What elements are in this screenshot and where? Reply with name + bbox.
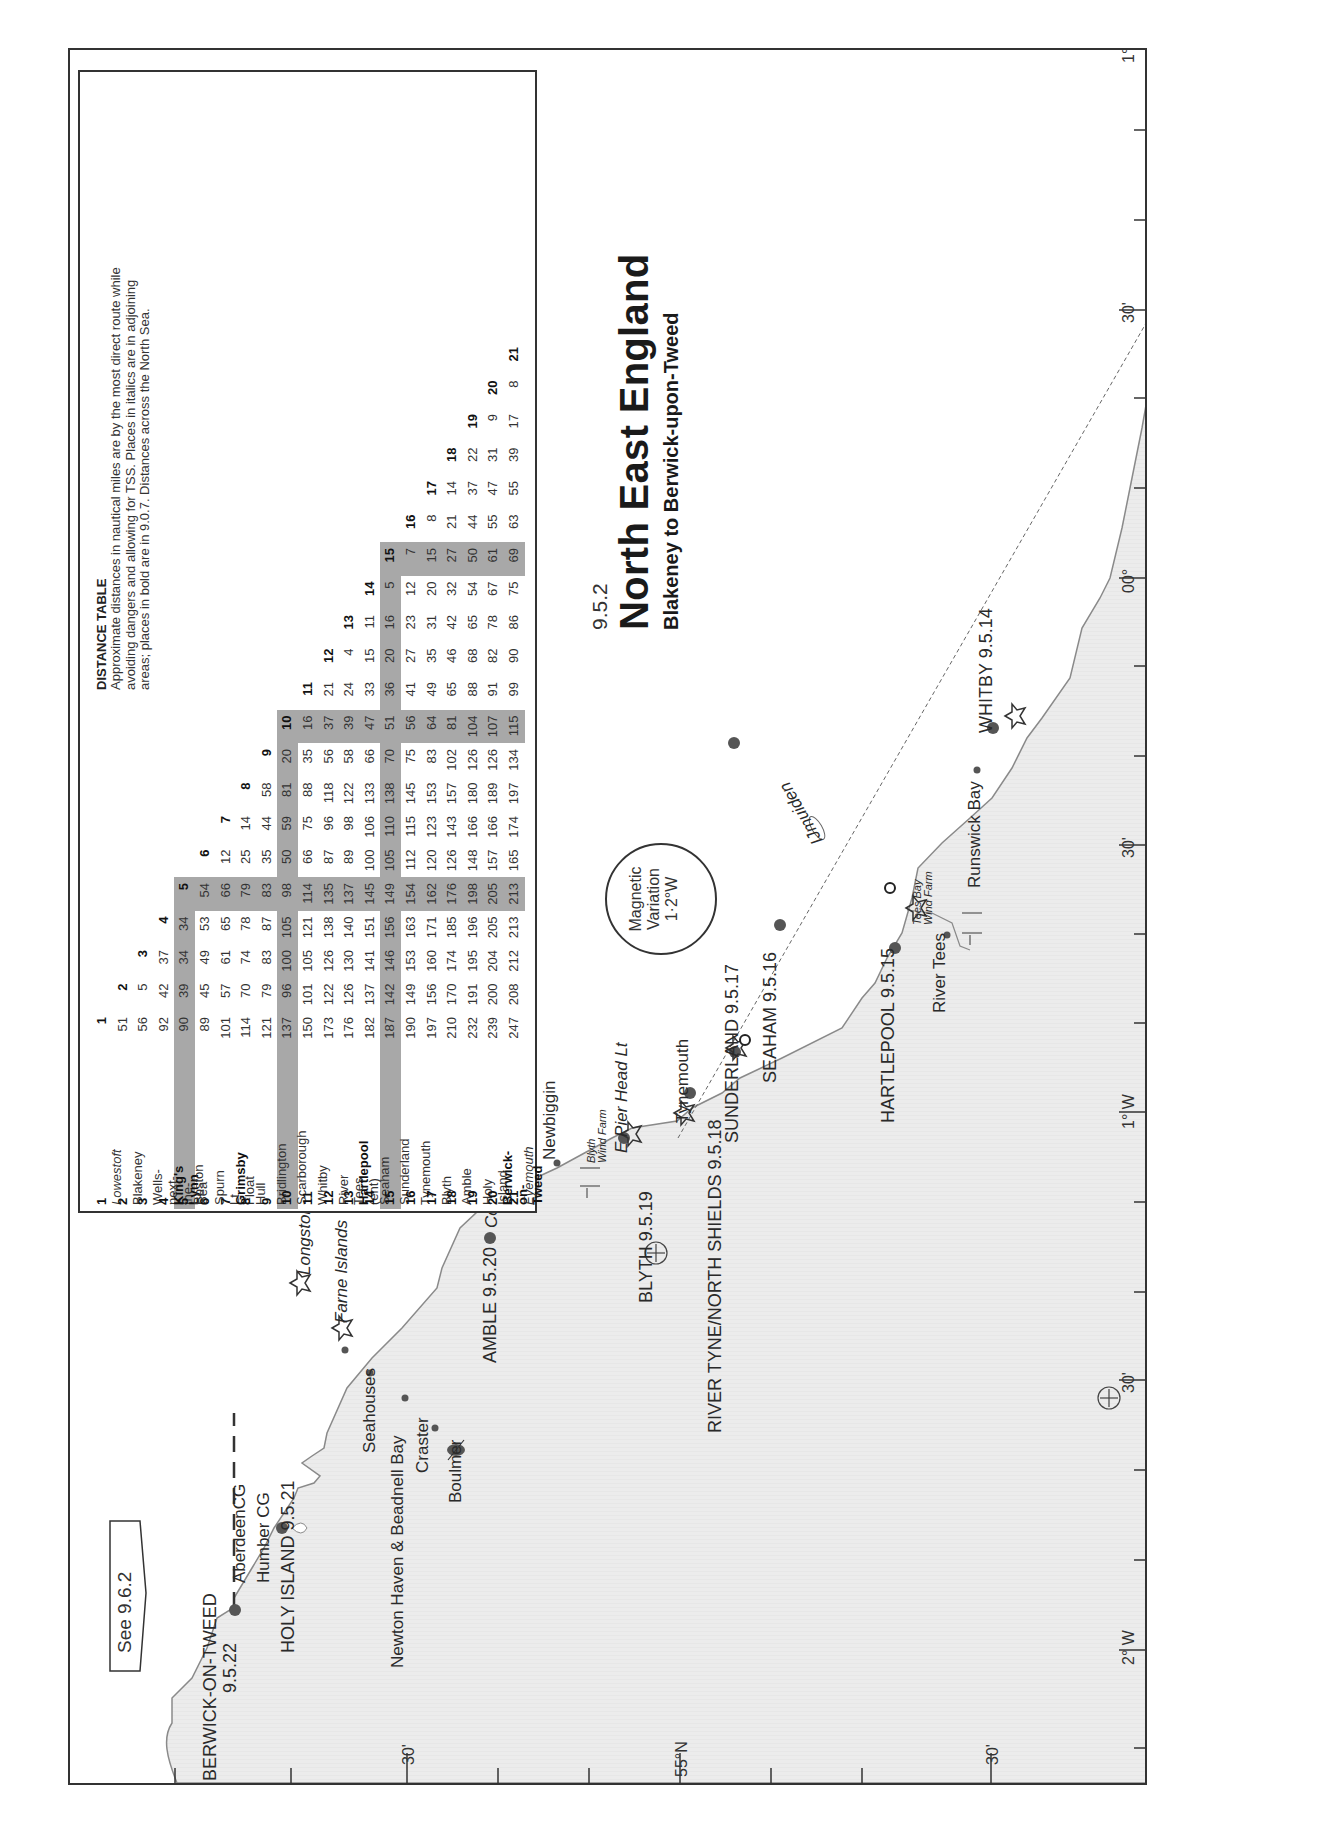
- distance-cell: 100: [279, 950, 294, 982]
- distance-cell: 86: [506, 615, 521, 647]
- distance-cell: 54: [465, 582, 480, 614]
- distance-cell: 204: [485, 950, 500, 982]
- label-river-tyne: RIVER TYNE/NORTH SHIELDS 9.5.18: [705, 1120, 726, 1433]
- distance-cell: 157: [485, 850, 500, 882]
- column-header: 5: [176, 883, 191, 915]
- see-reference-label[interactable]: See 9.6.2: [114, 1572, 136, 1653]
- distance-cell: 27: [403, 649, 418, 681]
- distance-cell: 12: [218, 850, 233, 882]
- distance-cell: 33: [362, 682, 377, 714]
- distance-cell: 45: [197, 984, 212, 1016]
- distance-cell: 16: [382, 615, 397, 647]
- distance-cell: 121: [300, 917, 315, 949]
- distance-cell: 24: [341, 682, 356, 714]
- distance-cell: 187: [382, 1017, 397, 1049]
- label-blyth-wind-farm: BlythWind Farm: [586, 1109, 608, 1163]
- distance-cell: 96: [321, 816, 336, 848]
- distance-cell: 36: [382, 682, 397, 714]
- distance-cell: 41: [403, 682, 418, 714]
- column-header: 2: [115, 984, 130, 1016]
- distance-cell: 31: [485, 448, 500, 480]
- distance-cell: 25: [238, 850, 253, 882]
- distance-cell: 126: [321, 950, 336, 982]
- distance-cell: 101: [300, 984, 315, 1016]
- column-header: 15: [382, 548, 397, 580]
- lon-label-00: 00°: [1120, 569, 1138, 593]
- distance-cell: 16: [300, 716, 315, 748]
- column-header: 1: [94, 1017, 109, 1049]
- distance-cell: 44: [259, 816, 274, 848]
- distance-cell: 75: [403, 749, 418, 781]
- distance-cell: 7: [403, 548, 418, 580]
- distance-cell: 100: [362, 850, 377, 882]
- distance-cell: 35: [300, 749, 315, 781]
- distance-cell: 138: [382, 783, 397, 815]
- distance-cell: 42: [156, 984, 171, 1016]
- distance-cell: 83: [424, 749, 439, 781]
- magvar-line1: Magnetic: [627, 845, 645, 953]
- distance-cell: 160: [424, 950, 439, 982]
- distance-cell: 15: [424, 548, 439, 580]
- distance-cell: 123: [424, 816, 439, 848]
- lat-label-55n: 55°N: [673, 1741, 691, 1777]
- distance-cell: 75: [506, 582, 521, 614]
- distance-cell: 15: [362, 649, 377, 681]
- distance-cell: 64: [424, 716, 439, 748]
- distance-cell: 57: [218, 984, 233, 1016]
- distance-cell: 163: [403, 917, 418, 949]
- distance-cell: 88: [300, 783, 315, 815]
- label-newbiggin: Newbiggin: [540, 1081, 560, 1160]
- distance-cell: 191: [465, 984, 480, 1016]
- column-header: 8: [238, 783, 253, 815]
- distance-cell: 55: [485, 515, 500, 547]
- distance-cell: 67: [485, 582, 500, 614]
- distance-cell: 135: [321, 883, 336, 915]
- distance-cell: 165: [506, 850, 521, 882]
- lon-label-2w: 2° W: [1120, 1630, 1138, 1665]
- distance-cell: 205: [485, 883, 500, 915]
- label-amble: AMBLE 9.5.20: [480, 1247, 501, 1363]
- distance-cell: 89: [197, 1017, 212, 1049]
- label-river-tees: River Tees: [930, 933, 950, 1013]
- label-blyth: BLYTH 9.5.19: [636, 1191, 657, 1303]
- column-header: 16: [403, 515, 418, 547]
- label-tynemouth: Tynemouth: [673, 1039, 693, 1123]
- magnetic-variation-badge: Magnetic Variation 1·2°W: [605, 843, 717, 955]
- distance-cell: 197: [424, 1017, 439, 1049]
- distance-cell: 61: [218, 950, 233, 982]
- lon-label-1w: 1° W: [1120, 1094, 1138, 1129]
- distance-cell: 32: [444, 582, 459, 614]
- distance-cell: 101: [218, 1017, 233, 1049]
- distance-cell: 9: [485, 414, 500, 446]
- column-header: 21: [506, 347, 521, 379]
- label-sunderland: SUNDERLAND 9.5.17: [722, 964, 743, 1143]
- distance-cell: 137: [362, 984, 377, 1016]
- page-subtitle: Blakeney to Berwick-upon-Tweed: [660, 313, 683, 630]
- distance-cell: 126: [465, 749, 480, 781]
- distance-cell: 105: [279, 917, 294, 949]
- label-farne-islands: Farne Islands: [332, 1220, 352, 1323]
- distance-cell: 35: [424, 649, 439, 681]
- distance-cell: 44: [465, 515, 480, 547]
- column-header: 3: [135, 950, 150, 982]
- label-aberdeen-cg: AberdeenCG: [230, 1484, 250, 1583]
- distance-cell: 65: [444, 682, 459, 714]
- distance-cell: 14: [444, 481, 459, 513]
- distance-cell: 68: [465, 649, 480, 681]
- distance-cell: 39: [341, 716, 356, 748]
- column-header: 13: [341, 615, 356, 647]
- distance-cell: 90: [176, 1017, 191, 1049]
- distance-cell: 114: [300, 883, 315, 915]
- distance-cell: 47: [362, 716, 377, 748]
- distance-cell: 126: [444, 850, 459, 882]
- label-seaham: SEAHAM 9.5.16: [760, 952, 781, 1083]
- label-berwick: BERWICK-ON-TWEED: [200, 1593, 221, 1781]
- distance-cell: 157: [444, 783, 459, 815]
- distance-cell: 56: [321, 749, 336, 781]
- label-craster: Craster: [413, 1417, 433, 1473]
- column-header: 12: [321, 649, 336, 681]
- distance-cell: 14: [238, 816, 253, 848]
- distance-cell: 205: [485, 917, 500, 949]
- distance-cell: 196: [465, 917, 480, 949]
- distance-cell: 146: [382, 950, 397, 982]
